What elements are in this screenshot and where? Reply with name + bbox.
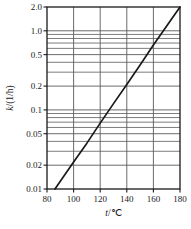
x-tick-label: 80 — [43, 194, 53, 204]
x-tick-label: 100 — [67, 194, 81, 204]
y-tick-label: 0.2 — [31, 81, 42, 91]
x-tick-label: 140 — [120, 194, 134, 204]
chart-svg: 0.010.020.050.10.20.51.02.08010012014016… — [0, 0, 191, 229]
y-tick-label: 2.0 — [31, 2, 43, 12]
y-tick-label: 0.1 — [31, 105, 42, 115]
x-tick-label: 160 — [147, 194, 161, 204]
y-axis-title: k/(1/h) — [5, 85, 16, 110]
x-tick-label: 120 — [93, 194, 107, 204]
y-tick-label: 1.0 — [31, 26, 43, 36]
y-tick-label: 0.01 — [26, 184, 42, 194]
y-axis-title-unit: /(1/h) — [5, 85, 16, 106]
x-axis-title: t/℃ — [105, 208, 121, 218]
y-tick-label: 0.05 — [26, 129, 42, 139]
y-tick-label: 0.02 — [26, 160, 42, 170]
x-tick-label: 180 — [173, 194, 187, 204]
semilog-chart-figure: 0.010.020.050.10.20.51.02.08010012014016… — [0, 0, 191, 229]
y-tick-label: 0.5 — [31, 50, 43, 60]
x-axis-title-unit: /℃ — [108, 208, 122, 218]
